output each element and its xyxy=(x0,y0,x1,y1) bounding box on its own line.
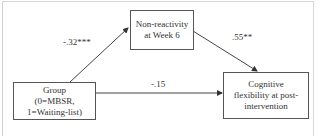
node-group-line-1: Group xyxy=(27,85,82,96)
node-group: Group (0=MBSR, 1=Waiting-list) xyxy=(13,82,96,120)
coefficient-c-prime-path: -.15 xyxy=(151,79,165,89)
node-group-line-3: 1=Waiting-list) xyxy=(27,107,82,118)
node-cognitive-line-3: intervention xyxy=(234,101,299,112)
coefficient-b-path: .55** xyxy=(232,32,252,42)
node-nonreactivity-line-2: at Week 6 xyxy=(136,30,188,41)
node-nonreactivity: Non-reactivity at Week 6 xyxy=(130,10,194,50)
node-cognitive-flexibility: Cognitive flexibility at post- intervent… xyxy=(223,72,309,119)
node-nonreactivity-line-1: Non-reactivity xyxy=(136,19,188,30)
node-group-line-2: (0=MBSR, xyxy=(27,96,82,107)
coefficient-a-path: -.32*** xyxy=(63,37,91,47)
node-cognitive-line-2: flexibility at post- xyxy=(234,90,299,101)
node-cognitive-line-1: Cognitive xyxy=(234,79,299,90)
